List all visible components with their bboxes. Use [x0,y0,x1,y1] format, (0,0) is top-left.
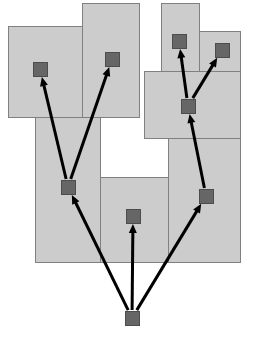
diagram-svg [0,0,256,353]
node-top-mid[interactable] [105,52,119,66]
regions-layer [9,4,241,263]
node-root[interactable] [125,311,139,325]
edge-root-to-center [132,232,133,310]
node-right-hub[interactable] [181,99,195,113]
node-left-mid[interactable] [61,180,75,194]
node-far-right[interactable] [215,43,229,57]
node-top-right[interactable] [172,34,186,48]
node-top-left[interactable] [33,62,47,76]
node-center-low[interactable] [126,209,140,223]
node-right-mid[interactable] [199,189,213,203]
diagram-canvas [0,0,256,353]
